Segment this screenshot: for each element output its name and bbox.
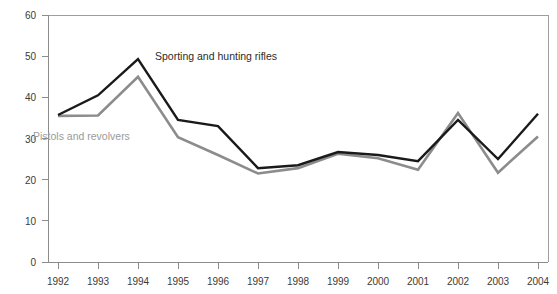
series-annotation-pistols: Pistols and revolvers — [33, 130, 130, 142]
series-annotation-rifles: Sporting and hunting rifles — [155, 50, 277, 62]
series-line-pistols-and-revolvers — [58, 77, 538, 174]
x-axis-tick-1995: 1995 — [167, 276, 190, 287]
x-axis-tick-2002: 2002 — [447, 276, 470, 287]
x-axis-tick-1997: 1997 — [247, 276, 270, 287]
x-axis-tick-1999: 1999 — [327, 276, 350, 287]
line-chart-container: 60 50 40 30 20 10 0 1992 1993 1994 1995 … — [0, 0, 557, 294]
x-axis-tick-2000: 2000 — [367, 276, 390, 287]
x-axis-tick-2004: 2004 — [527, 276, 550, 287]
x-tick-marks — [58, 262, 538, 269]
y-axis-tick-0: 0 — [30, 257, 36, 268]
y-axis-tick-50: 50 — [25, 51, 37, 62]
y-axis-tick-10: 10 — [25, 216, 37, 227]
x-axis-tick-1998: 1998 — [287, 276, 310, 287]
y-axis-tick-60: 60 — [25, 10, 37, 21]
chart-canvas: 60 50 40 30 20 10 0 1992 1993 1994 1995 … — [0, 0, 557, 294]
x-axis-tick-2003: 2003 — [487, 276, 510, 287]
x-axis-tick-1996: 1996 — [207, 276, 230, 287]
x-axis-tick-1994: 1994 — [127, 276, 150, 287]
y-axis-tick-40: 40 — [25, 92, 37, 103]
x-axis-tick-1993: 1993 — [87, 276, 110, 287]
y-axis-tick-20: 20 — [25, 175, 37, 186]
x-axis-tick-1992: 1992 — [47, 276, 70, 287]
x-axis-tick-2001: 2001 — [407, 276, 430, 287]
series-line-sporting-and-hunting-rifles — [58, 59, 538, 168]
